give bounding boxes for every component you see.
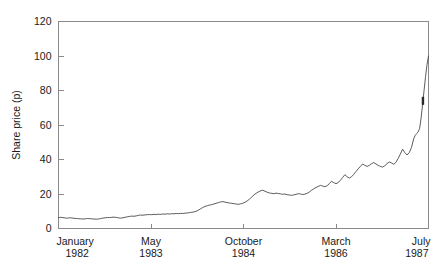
x-tick-label-year: 1984	[232, 247, 256, 259]
y-axis-tick-labels: 020406080100120	[34, 15, 52, 234]
y-axis-title: Share price (p)	[10, 90, 22, 159]
x-tick-label-year: 1986	[324, 247, 348, 259]
plot-frame	[59, 22, 429, 229]
y-tick-label: 20	[40, 188, 52, 200]
spike-marker-icon	[422, 97, 424, 105]
y-tick-label: 0	[46, 222, 52, 234]
x-axis-tick-labels: January1982May1983October1984March1986Ju…	[57, 235, 432, 259]
x-tick-label-year: 1987	[405, 247, 429, 259]
x-tick-label-month: October	[225, 235, 263, 247]
y-tick-label: 100	[34, 50, 52, 62]
y-tick-label: 60	[40, 119, 52, 131]
x-tick-label-month: May	[141, 235, 162, 247]
x-tick-label-year: 1983	[139, 247, 163, 259]
x-tick-label-month: January	[57, 235, 95, 247]
y-tick-label: 120	[34, 15, 52, 27]
y-tick-label: 80	[40, 84, 52, 96]
line-chart: 020406080100120 January1982May1983Octobe…	[0, 0, 444, 275]
y-axis-ticks	[59, 22, 64, 229]
x-tick-label-year: 1982	[66, 247, 90, 259]
x-tick-label-month: March	[321, 235, 350, 247]
data-series-share-price	[59, 56, 429, 219]
x-axis-ticks	[59, 224, 429, 229]
chart-container: 020406080100120 January1982May1983Octobe…	[0, 0, 444, 275]
x-tick-label-month: July	[412, 235, 431, 247]
y-tick-label: 40	[40, 153, 52, 165]
